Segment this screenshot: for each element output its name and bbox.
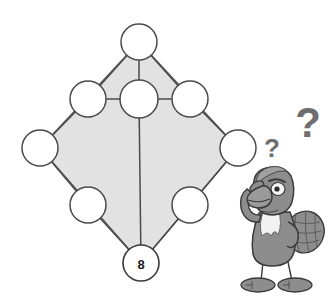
node-upper-right[interactable] bbox=[172, 81, 208, 117]
thinking-bird bbox=[241, 167, 330, 293]
node-mid-right[interactable] bbox=[220, 130, 256, 166]
node-lower-left[interactable] bbox=[70, 187, 106, 223]
node-mid-left[interactable] bbox=[22, 130, 58, 166]
small-question-mark: ? bbox=[264, 133, 280, 163]
bird-feet bbox=[241, 278, 312, 292]
node-lower-right[interactable] bbox=[172, 187, 208, 223]
node-upper-left[interactable] bbox=[70, 81, 106, 117]
diamond-graph: 8 ? ? bbox=[0, 0, 335, 301]
node-bottom-label: 8 bbox=[137, 257, 144, 272]
node-upper-center[interactable] bbox=[120, 80, 158, 118]
node-apex[interactable] bbox=[121, 24, 157, 60]
puzzle-canvas: 8 ? ? bbox=[0, 0, 335, 301]
bird-eye bbox=[271, 183, 285, 196]
large-question-mark: ? bbox=[295, 99, 321, 146]
